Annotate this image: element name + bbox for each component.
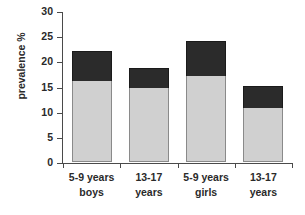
x-category-label-1: 5-9 yearsboys	[59, 170, 124, 200]
y-tick-label: 5	[47, 131, 53, 143]
x-tick	[292, 163, 293, 168]
x-category-label-line2: years	[231, 185, 296, 200]
bar-segment-lower	[129, 88, 169, 162]
y-tick: 30	[57, 12, 63, 13]
x-category-label-line2: girls	[174, 185, 239, 200]
x-category-label-line2: boys	[59, 185, 124, 200]
x-category-label-line1: 13-17	[116, 170, 181, 185]
x-category-label-line1: 13-17	[231, 170, 296, 185]
x-category-label-4: 13-17years	[231, 170, 296, 200]
x-category-label-3: 5-9 yearsgirls	[174, 170, 239, 200]
x-category-label-line1: 5-9 years	[59, 170, 124, 185]
x-tick	[63, 163, 64, 168]
y-tick: 5	[57, 138, 63, 139]
bar-segment-upper	[72, 51, 112, 81]
bar-segment-upper	[129, 68, 169, 87]
y-tick-label: 10	[41, 106, 53, 118]
x-category-label-line1: 5-9 years	[174, 170, 239, 185]
chart-figure: prevalence % 051015202530 5-9 yearsboys1…	[0, 0, 305, 215]
bar-segment-lower	[186, 76, 226, 162]
x-tick	[120, 163, 121, 168]
bar-segment-lower	[72, 81, 112, 162]
y-tick: 20	[57, 62, 63, 63]
bar-segment-upper	[186, 41, 226, 77]
bar-segment-upper	[243, 86, 283, 108]
x-category-label-2: 13-17years	[116, 170, 181, 200]
y-axis-title: prevalence %	[15, 0, 27, 136]
x-category-label-line2: years	[116, 185, 181, 200]
y-tick: 15	[57, 88, 63, 89]
bar-3	[186, 41, 226, 162]
bar-segment-lower	[243, 108, 283, 162]
y-tick-label: 25	[41, 30, 53, 42]
bar-4	[243, 86, 283, 162]
y-tick-label: 20	[41, 55, 53, 67]
y-tick: 25	[57, 37, 63, 38]
plot-area: 051015202530	[63, 12, 292, 163]
x-tick	[235, 163, 236, 168]
y-tick-label: 30	[41, 5, 53, 17]
y-tick-label: 0	[47, 156, 53, 168]
y-tick: 10	[57, 113, 63, 114]
x-tick	[178, 163, 179, 168]
bar-1	[72, 51, 112, 162]
y-tick-label: 15	[41, 81, 53, 93]
x-axis-line	[62, 163, 292, 164]
bar-2	[129, 68, 169, 162]
